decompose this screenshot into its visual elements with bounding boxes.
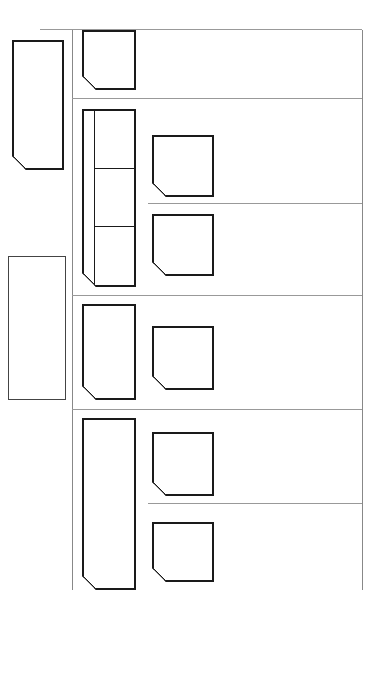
court-federal-finance-court xyxy=(152,135,214,197)
court-federal-court-of-justice xyxy=(152,432,214,496)
courts-diagram xyxy=(0,0,386,674)
labor-courts-header xyxy=(82,304,136,400)
column-divider-1 xyxy=(72,409,362,410)
patents-courts-header xyxy=(82,30,136,90)
bottom-divider xyxy=(362,30,363,590)
header-divider xyxy=(72,30,73,590)
court-federal-administrative-court xyxy=(152,214,214,276)
court-federal-labor-court xyxy=(152,326,214,390)
ordinary-inner-divider xyxy=(148,503,362,504)
general-courts-header xyxy=(96,227,134,285)
finance-courts-header xyxy=(96,169,134,227)
administrative-courts-header xyxy=(82,109,136,287)
column-divider-3 xyxy=(72,98,362,99)
state-constitutional-courts xyxy=(12,40,64,170)
admin-header-rule xyxy=(94,111,95,285)
federal-constitutional-court xyxy=(8,256,66,400)
social-courts-header xyxy=(96,111,134,169)
right-edge-line xyxy=(40,29,362,30)
ordinary-courts-header xyxy=(82,418,136,590)
admin-inner-divider-1 xyxy=(148,203,362,204)
court-higher-regional-court-law xyxy=(152,522,214,582)
column-divider-2 xyxy=(72,295,362,296)
